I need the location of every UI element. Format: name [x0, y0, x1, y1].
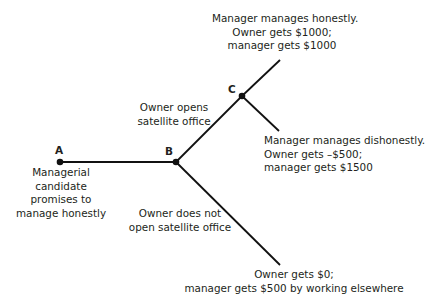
edge-c-honest: [242, 60, 280, 96]
edge-label-line: Owner does not: [128, 207, 232, 221]
edge-open-office-label: Owner opens satellite office: [134, 101, 214, 128]
game-tree-diagram: A B C Managerial candidate promises to m…: [0, 0, 433, 305]
node-c-label: C: [228, 83, 236, 95]
outcome-dishonest: Manager manages dishonestly. Owner gets …: [264, 134, 425, 175]
outcome-line: manager gets $500 by working elsewhere: [184, 282, 404, 296]
node-b-dot: [173, 159, 180, 166]
edge-label-line: open satellite office: [128, 221, 232, 235]
node-c-dot: [239, 93, 246, 100]
outcome-line: Owner gets $1000;: [212, 26, 352, 40]
edge-not-open-label: Owner does not open satellite office: [128, 207, 232, 234]
outcome-line: Owner gets $0;: [184, 268, 404, 282]
node-a-desc-line: promises to: [14, 193, 108, 207]
node-a-desc-line: manage honestly: [14, 207, 108, 221]
outcome-line: Owner gets –$500;: [264, 148, 425, 162]
outcome-line: manager gets $1000: [212, 39, 352, 53]
node-a-desc-line: candidate: [14, 180, 108, 194]
outcome-honest: Manager manages honestly. Owner gets $10…: [212, 12, 352, 53]
node-a-label: A: [55, 144, 63, 156]
edge-c-dishonest: [242, 96, 279, 131]
node-a-desc-line: Managerial: [14, 166, 108, 180]
outcome-no-office: Owner gets $0; manager gets $500 by work…: [184, 268, 404, 295]
node-a-description: Managerial candidate promises to manage …: [14, 166, 108, 220]
edge-label-line: satellite office: [134, 115, 214, 129]
node-b-label: B: [165, 145, 173, 157]
outcome-line: Manager manages dishonestly.: [264, 134, 425, 148]
outcome-line: manager gets $1500: [264, 161, 425, 175]
node-a-dot: [57, 159, 64, 166]
outcome-line: Manager manages honestly.: [212, 12, 352, 26]
edge-label-line: Owner opens: [134, 101, 214, 115]
